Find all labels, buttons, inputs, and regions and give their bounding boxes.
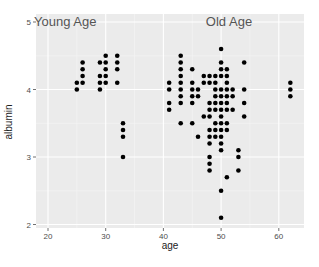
data-point <box>178 74 183 79</box>
data-point <box>225 94 230 99</box>
data-point <box>213 74 218 79</box>
data-point <box>219 74 224 79</box>
data-point <box>225 128 230 133</box>
data-point <box>196 134 201 139</box>
data-point <box>167 107 172 112</box>
data-point <box>213 134 218 139</box>
data-point <box>225 74 230 79</box>
data-point <box>201 74 206 79</box>
data-point <box>178 94 183 99</box>
data-point <box>207 74 212 79</box>
data-point <box>213 107 218 112</box>
data-point <box>190 94 195 99</box>
data-point <box>115 80 120 85</box>
y-tick-label: 3 <box>27 153 32 162</box>
data-point <box>190 67 195 72</box>
data-point <box>207 128 212 133</box>
data-point <box>178 101 183 106</box>
data-point <box>225 121 230 126</box>
data-point <box>213 87 218 92</box>
data-point <box>75 80 80 85</box>
data-point <box>288 80 293 85</box>
data-point <box>207 155 212 160</box>
data-point <box>213 128 218 133</box>
data-point <box>121 128 126 133</box>
data-point <box>242 60 247 65</box>
x-tick-label: 50 <box>217 232 226 241</box>
data-point <box>178 80 183 85</box>
data-point <box>178 53 183 58</box>
data-point <box>178 121 183 126</box>
data-point <box>115 53 120 58</box>
data-point <box>242 101 247 106</box>
data-point <box>288 94 293 99</box>
data-point <box>167 87 172 92</box>
data-point <box>201 114 206 119</box>
data-point <box>230 94 235 99</box>
data-point <box>230 107 235 112</box>
data-point <box>196 87 201 92</box>
data-point <box>225 87 230 92</box>
data-point <box>213 94 218 99</box>
data-point <box>201 80 206 85</box>
data-point <box>103 67 108 72</box>
data-point <box>288 87 293 92</box>
facet-label-young: Young Age <box>34 14 96 29</box>
data-point <box>80 74 85 79</box>
data-point <box>103 53 108 58</box>
data-point <box>236 155 241 160</box>
y-tick-label: 4 <box>27 86 32 95</box>
data-point <box>207 101 212 106</box>
data-point <box>213 101 218 106</box>
x-tick-label: 30 <box>101 232 110 241</box>
data-point <box>103 74 108 79</box>
data-point <box>103 80 108 85</box>
data-point <box>178 87 183 92</box>
data-point <box>121 134 126 139</box>
data-point <box>115 60 120 65</box>
data-point <box>213 121 218 126</box>
data-point <box>219 188 224 193</box>
y-tick-label: 2 <box>27 221 32 230</box>
data-point <box>219 67 224 72</box>
data-point <box>103 60 108 65</box>
data-point <box>242 87 247 92</box>
data-point <box>75 87 80 92</box>
data-point <box>242 114 247 119</box>
plot-panel <box>36 14 304 228</box>
data-point <box>190 80 195 85</box>
data-point <box>121 155 126 160</box>
data-point <box>190 87 195 92</box>
scatter-chart: 2345 2030405060 Young Age Old Age age al… <box>0 0 319 267</box>
data-point <box>219 60 224 65</box>
y-axis: 2345 <box>27 18 36 230</box>
data-point <box>196 94 201 99</box>
x-axis-title: age <box>162 240 179 251</box>
data-point <box>219 121 224 126</box>
data-point <box>219 87 224 92</box>
data-point <box>219 94 224 99</box>
data-point <box>98 87 103 92</box>
data-point <box>98 60 103 65</box>
data-point <box>225 80 230 85</box>
data-point <box>219 134 224 139</box>
data-point <box>207 168 212 173</box>
y-axis-title: albumin <box>3 104 14 139</box>
data-point <box>207 114 212 119</box>
data-point <box>115 67 120 72</box>
data-point <box>178 60 183 65</box>
y-tick-label: 5 <box>27 18 32 27</box>
x-tick-label: 20 <box>44 232 53 241</box>
data-point <box>225 175 230 180</box>
data-point <box>80 67 85 72</box>
data-point <box>219 47 224 52</box>
data-point <box>219 107 224 112</box>
data-point <box>207 80 212 85</box>
data-point <box>236 168 241 173</box>
data-point <box>230 87 235 92</box>
data-point <box>219 114 224 119</box>
data-point <box>225 67 230 72</box>
data-point <box>190 101 195 106</box>
data-point <box>80 80 85 85</box>
data-point <box>80 60 85 65</box>
